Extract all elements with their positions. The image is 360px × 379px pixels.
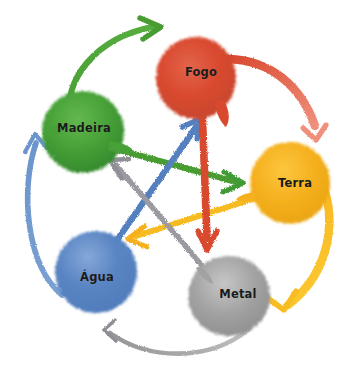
- node-agua[interactable]: [55, 231, 137, 313]
- five-elements-diagram: Fogo Madeira Terra Água Metal: [0, 0, 360, 379]
- node-terra[interactable]: [250, 142, 330, 224]
- wuxing-cycle-svg: [0, 0, 360, 379]
- arrow-fogo-to-terra: [228, 59, 326, 140]
